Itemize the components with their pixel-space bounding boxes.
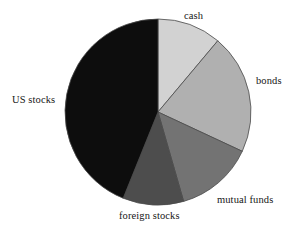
pie-label-foreign-stocks: foreign stocks	[119, 211, 180, 222]
pie-label-bonds: bonds	[256, 76, 282, 87]
pie-label-mutual-funds: mutual funds	[217, 195, 273, 206]
pie-label-us-stocks: US stocks	[12, 95, 55, 106]
pie-label-cash: cash	[184, 11, 203, 22]
pie-slices-group	[65, 19, 251, 205]
pie-chart-figure: cash bonds mutual funds foreign stocks U…	[0, 0, 298, 233]
